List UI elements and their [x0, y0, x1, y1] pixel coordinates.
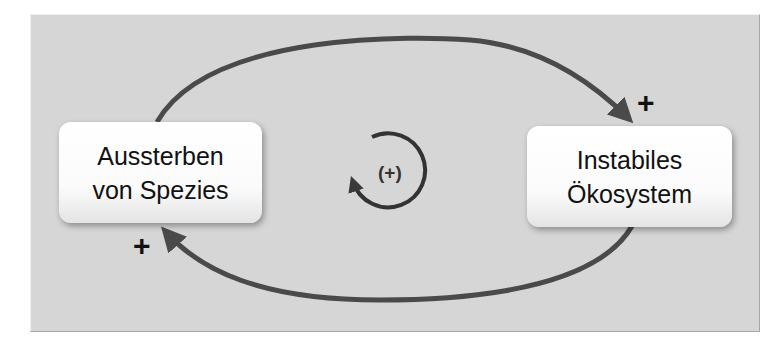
node-aussterben-von-spezies: Aussterben von Spezies	[59, 122, 262, 223]
node-instabiles-oekosystem: Instabiles Ökosystem	[527, 126, 732, 227]
arrow-top-arc	[157, 38, 628, 122]
node-label-line: Ökosystem	[567, 177, 692, 211]
node-label-line: Instabiles	[577, 143, 683, 177]
node-label-line: von Spezies	[92, 173, 228, 207]
loop-polarity-label: (+)	[378, 162, 402, 184]
polarity-sign-bottom: +	[133, 231, 151, 261]
node-label-line: Aussterben	[97, 139, 223, 173]
arrow-bottom-arc	[166, 226, 632, 300]
polarity-sign-top: +	[637, 88, 655, 118]
